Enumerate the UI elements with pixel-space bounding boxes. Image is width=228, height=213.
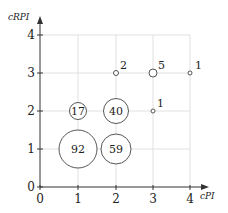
y-tick-3: 3 [27, 66, 35, 80]
bubble-label-59: 59 [109, 143, 123, 156]
x-tick-4: 4 [186, 192, 194, 206]
bubble-3-3 [149, 69, 157, 77]
x-tick-1: 1 [74, 192, 82, 206]
x-tick-3: 3 [149, 192, 157, 206]
y-tick-4: 4 [27, 28, 35, 42]
y-tick-0: 0 [27, 180, 35, 194]
bubble-label-17: 17 [71, 105, 85, 118]
bubble-label-1a: 1 [157, 97, 164, 110]
x-axis-arrow-icon [201, 184, 209, 190]
y-tick-1: 1 [27, 142, 35, 156]
x-axis-label: cPI [200, 191, 215, 201]
bubble-2-3 [114, 71, 119, 76]
bubble-3-2 [151, 109, 155, 113]
y-axis-arrow-icon [37, 16, 43, 24]
bubble-label-40: 40 [109, 105, 123, 118]
bubble-label-2: 2 [120, 59, 127, 72]
bubble-label-5: 5 [158, 59, 165, 72]
bubble-label-1b: 1 [195, 59, 202, 72]
bubble-4-3 [188, 71, 192, 75]
y-axis-label: cRPI [8, 12, 30, 22]
bubble-chart: 0 1 2 3 4 0 1 2 3 4 cPI cRPI 92 59 17 40… [0, 0, 228, 213]
x-tick-2: 2 [112, 192, 120, 206]
bubble-label-92: 92 [71, 143, 85, 156]
y-tick-2: 2 [27, 104, 35, 118]
x-tick-0: 0 [36, 192, 44, 206]
